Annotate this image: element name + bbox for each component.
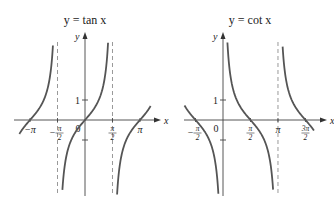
- x-tick-label-numerator: π: [58, 124, 62, 133]
- y-axis-arrow-icon: [83, 32, 88, 39]
- x-axis-label: x: [163, 115, 169, 126]
- y-axis-label: y: [74, 31, 80, 42]
- figure: y = tan x xy1−ππ2−0π2π y = cot x xy1π2−0…: [0, 0, 334, 210]
- x-tick-label-denominator: 2: [58, 133, 62, 142]
- tan-chart: y = tan x xy1−ππ2−0π2π: [14, 13, 169, 196]
- chart-title: y = cot x: [229, 13, 271, 27]
- x-axis-arrow-icon: [154, 118, 161, 123]
- y-tick-label: 1: [213, 95, 218, 106]
- chart-title: y = tan x: [64, 13, 106, 27]
- x-tick-label-denominator: 2: [196, 133, 200, 142]
- x-tick-label-denominator: 2: [249, 133, 253, 142]
- x-axis-arrow-icon: [320, 118, 327, 123]
- curve-branch: [117, 106, 151, 194]
- curve-branch: [227, 43, 273, 190]
- x-tick-label-denominator: 2: [304, 133, 308, 142]
- x-tick-label-numerator: 3π: [301, 124, 310, 133]
- x-tick-label-sign: −: [188, 127, 194, 138]
- cot-chart: y = cot x xy1π2−0π2π3π2: [184, 13, 334, 196]
- x-axis-label: x: [329, 115, 334, 126]
- y-axis-label: y: [212, 31, 218, 42]
- curve-branch: [185, 105, 219, 193]
- y-axis-arrow-icon: [221, 32, 226, 39]
- curve-branch: [283, 47, 314, 131]
- x-tick-label: 0: [214, 123, 219, 134]
- x-tick-label-numerator: π: [249, 124, 253, 133]
- x-tick-label-numerator: π: [111, 124, 115, 133]
- x-tick-label: π: [137, 124, 143, 135]
- x-tick-label: π: [275, 124, 281, 135]
- y-tick-label: 1: [75, 95, 80, 106]
- x-tick-label-sign: −: [50, 127, 56, 138]
- curve-branch: [19, 45, 53, 133]
- x-tick-label-denominator: 2: [111, 133, 115, 142]
